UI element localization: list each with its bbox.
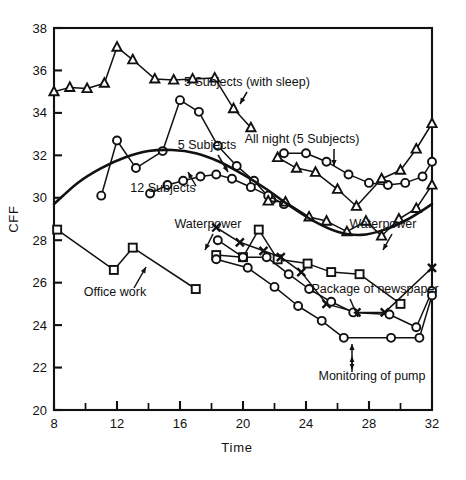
- y-axis-tick-label: 24: [33, 318, 47, 333]
- monitoring-pump-double-arrow-head-up: [350, 356, 355, 362]
- data-point-triangle: [169, 75, 178, 84]
- data-point-circle: [212, 255, 220, 263]
- data-point-triangle: [292, 163, 301, 172]
- data-point-circle: [271, 283, 279, 291]
- data-point-circle: [385, 311, 393, 319]
- data-point-triangle: [427, 180, 436, 189]
- data-point-circle: [113, 136, 121, 144]
- data-point-circle: [132, 164, 140, 172]
- ann-waterpower-left: Waterpower: [175, 217, 242, 231]
- data-point-square: [192, 285, 200, 293]
- ann-office-work: Office work: [84, 285, 147, 299]
- y-axis-tick-label: 20: [33, 403, 47, 418]
- data-point-circle: [97, 192, 105, 200]
- data-point-square: [304, 260, 312, 268]
- ann-5subj-sleep: 5 Subjects (with sleep): [184, 75, 310, 89]
- data-point-circle: [365, 179, 373, 187]
- data-point-circle: [176, 96, 184, 104]
- data-point-triangle: [322, 216, 331, 225]
- ann-all-night: All night (5 Subjects): [245, 132, 360, 146]
- data-point-circle: [412, 323, 420, 331]
- x-axis-tick-label: 12: [110, 416, 124, 431]
- y-axis-tick-label: 22: [33, 360, 47, 375]
- x-axis-tick-label: 32: [425, 416, 439, 431]
- data-point-triangle: [100, 78, 109, 87]
- data-point-circle: [263, 253, 271, 261]
- chart-canvas: 5 Subjects (with sleep)5 SubjectsAll nig…: [0, 0, 466, 480]
- data-point-circle: [228, 175, 236, 183]
- data-point-square: [255, 226, 263, 234]
- data-point-circle: [244, 264, 252, 272]
- data-point-triangle: [229, 104, 238, 113]
- series-office-work: [53, 226, 200, 293]
- ann-monitoring-pump: Monitoring of pump: [318, 369, 425, 383]
- data-point-circle: [318, 317, 326, 325]
- y-axis-tick-label: 32: [33, 148, 47, 163]
- data-point-square: [327, 268, 335, 276]
- data-point-circle: [415, 334, 423, 342]
- ann-monitoring-pump-arrowhead: [349, 344, 354, 350]
- data-point-circle: [322, 158, 330, 166]
- data-point-circle: [419, 173, 427, 181]
- data-point-triangle: [377, 174, 386, 183]
- data-point-circle: [212, 170, 220, 178]
- y-axis-tick-label: 30: [33, 190, 47, 205]
- series-monitoring-of-pump-circles-lower: [212, 255, 436, 342]
- data-point-circle: [285, 270, 293, 278]
- ann-waterpower-right: Waterpower: [350, 217, 417, 231]
- data-point-square: [129, 244, 137, 252]
- x-axis-tick-label: 24: [299, 416, 313, 431]
- data-point-triangle: [311, 167, 320, 176]
- data-point-triangle: [49, 87, 58, 96]
- data-point-triangle: [333, 184, 342, 193]
- data-point-triangle: [112, 42, 121, 51]
- data-point-triangle: [128, 55, 137, 64]
- data-point-circle: [340, 334, 348, 342]
- data-point-triangle: [412, 144, 421, 153]
- data-point-triangle: [65, 82, 74, 91]
- y-axis-tick-label: 36: [33, 63, 47, 78]
- cff-time-chart: 5 Subjects (with sleep)5 SubjectsAll nig…: [0, 0, 466, 480]
- data-point-circle: [280, 149, 288, 157]
- x-axis-tick-label: 8: [50, 416, 57, 431]
- y-axis-title: CFF: [6, 205, 21, 233]
- y-axis-tick-label: 38: [33, 21, 47, 36]
- x-axis-tick-label: 28: [362, 416, 376, 431]
- data-point-square: [356, 270, 364, 278]
- data-point-circle: [294, 302, 302, 310]
- x-axis-tick-label: 20: [236, 416, 250, 431]
- data-point-triangle: [83, 84, 92, 93]
- data-point-circle: [401, 179, 409, 187]
- ann-5subj: 5 Subjects: [178, 138, 236, 152]
- data-point-square: [53, 226, 61, 234]
- y-axis-tick-label: 26: [33, 275, 47, 290]
- ann-12subj: 12 Subjects: [130, 181, 195, 195]
- data-point-circle: [327, 298, 335, 306]
- data-point-circle: [239, 253, 247, 261]
- y-axis-tick-label: 34: [33, 105, 47, 120]
- series-line: [57, 230, 196, 289]
- y-axis-tick-label: 28: [33, 233, 47, 248]
- x-axis-tick-label: 16: [173, 416, 187, 431]
- ann-package-newspaper: Package of newspaper: [311, 282, 438, 296]
- data-point-circle: [214, 236, 222, 244]
- data-point-triangle: [427, 119, 436, 128]
- x-axis-title: Time: [221, 440, 253, 455]
- data-point-circle: [196, 173, 204, 181]
- data-point-circle: [428, 158, 436, 166]
- data-point-circle: [345, 170, 353, 178]
- data-point-circle: [195, 108, 203, 116]
- data-point-square: [110, 266, 118, 274]
- data-point-circle: [302, 149, 310, 157]
- data-point-circle: [247, 183, 255, 191]
- data-point-circle: [387, 334, 395, 342]
